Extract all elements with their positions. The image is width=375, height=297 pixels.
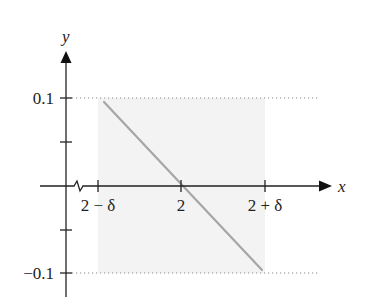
x-axis-arrow-icon [319, 181, 332, 192]
y-axis-arrow-icon [61, 51, 72, 63]
x-tick-label-2-minus-delta: 2 − δ [81, 196, 116, 215]
y-tick-label-neg0.1: −0.1 [23, 264, 54, 283]
y-tick-label-0.1: 0.1 [33, 89, 54, 108]
y-axis-label: y [60, 27, 70, 46]
x-tick-label-2: 2 [177, 196, 186, 215]
x-tick-label-2-plus-delta: 2 + δ [248, 196, 283, 215]
x-axis-label: x [337, 177, 346, 196]
function-diagram: y x 0.1 −0.1 2 − δ 2 2 + δ [0, 0, 375, 297]
